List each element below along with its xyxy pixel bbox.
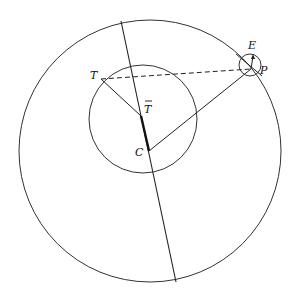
svg-text:T: T — [144, 103, 153, 116]
t-to-p-dashed-line — [101, 69, 251, 79]
label-t: T — [90, 69, 99, 82]
axis-line — [121, 21, 176, 282]
diagram-canvas: E P T T C — [0, 0, 296, 298]
t-to-tbar-line — [101, 79, 141, 116]
c-to-p-line — [149, 69, 251, 151]
label-e: E — [247, 39, 256, 52]
label-p: P — [259, 64, 268, 77]
label-t-bar: T — [144, 101, 153, 116]
label-c: C — [135, 146, 144, 159]
